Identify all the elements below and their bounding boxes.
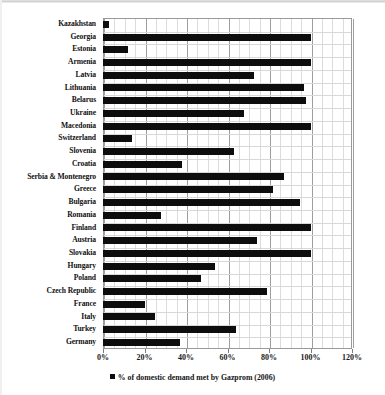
- category-label: Italy: [0, 311, 100, 324]
- category-axis-labels: KazakhstanGeorgiaEstoniaArmeniaLatviaLit…: [0, 18, 100, 349]
- bar: [103, 186, 273, 193]
- bar-row: [103, 120, 352, 133]
- category-label: Switzerland: [0, 132, 100, 145]
- x-axis-tick-label: 0%: [97, 353, 109, 362]
- bar-row: [103, 132, 352, 145]
- bar: [103, 339, 180, 346]
- bar-row: [103, 222, 352, 235]
- bar: [103, 97, 306, 104]
- category-label: France: [0, 298, 100, 311]
- bar: [103, 84, 304, 91]
- bar: [103, 288, 267, 295]
- bar-row: [103, 94, 352, 107]
- category-label: Turkey: [0, 323, 100, 336]
- bar: [103, 59, 311, 66]
- bar-row: [103, 107, 352, 120]
- category-label: Ukraine: [0, 107, 100, 120]
- x-axis-tick-label: 40%: [178, 353, 194, 362]
- x-axis-tick-label: 60%: [220, 353, 236, 362]
- chart-legend: % of domestic demand met by Gazprom (200…: [0, 372, 385, 382]
- bar-row: [103, 43, 352, 56]
- category-label: Slovakia: [0, 247, 100, 260]
- bar-row: [103, 234, 352, 247]
- category-label: Finland: [0, 222, 100, 235]
- category-label: Czech Republic: [0, 285, 100, 298]
- bar: [103, 313, 155, 320]
- x-axis-tick-label: 20%: [137, 353, 153, 362]
- category-label: Macedonia: [0, 120, 100, 133]
- category-label: Kazakhstan: [0, 18, 100, 31]
- bar: [103, 237, 257, 244]
- gazprom-domestic-demand-bar-chart: KazakhstanGeorgiaEstoniaArmeniaLatviaLit…: [0, 0, 385, 395]
- bar-row: [103, 171, 352, 184]
- bar-row: [103, 18, 352, 31]
- bar: [103, 148, 234, 155]
- bar: [103, 224, 311, 231]
- category-label: Germany: [0, 336, 100, 349]
- legend-label: % of domestic demand met by Gazprom (200…: [118, 373, 275, 382]
- bar: [103, 135, 132, 142]
- category-label: Croatia: [0, 158, 100, 171]
- category-label: Poland: [0, 272, 100, 285]
- bar-row: [103, 285, 352, 298]
- category-label: Estonia: [0, 43, 100, 56]
- bar: [103, 326, 236, 333]
- category-label: Hungary: [0, 260, 100, 273]
- bar: [103, 72, 254, 79]
- bar: [103, 250, 311, 257]
- bar-row: [103, 31, 352, 44]
- x-axis-tick-label: 80%: [261, 353, 277, 362]
- bar: [103, 34, 311, 41]
- bar-row: [103, 298, 352, 311]
- legend-swatch-icon: [110, 374, 115, 379]
- bar-row: [103, 336, 352, 349]
- bar: [103, 199, 300, 206]
- x-axis-tick-label: 120%: [342, 353, 362, 362]
- bar: [103, 21, 109, 28]
- bar: [103, 173, 284, 180]
- bar: [103, 46, 128, 53]
- category-label: Latvia: [0, 69, 100, 82]
- category-label: Serbia & Montenegro: [0, 171, 100, 184]
- x-axis-tick-label: 100%: [301, 353, 321, 362]
- category-label: Austria: [0, 234, 100, 247]
- category-label: Georgia: [0, 31, 100, 44]
- category-label: Armenia: [0, 56, 100, 69]
- bar: [103, 110, 244, 117]
- bar-row: [103, 311, 352, 324]
- category-label: Greece: [0, 183, 100, 196]
- bar-row: [103, 82, 352, 95]
- bar-row: [103, 323, 352, 336]
- bar: [103, 275, 201, 282]
- bar-row: [103, 145, 352, 158]
- bar: [103, 263, 215, 270]
- bar: [103, 123, 311, 130]
- gridline-major: [353, 19, 354, 348]
- bar-row: [103, 272, 352, 285]
- x-axis-tick-labels: 0%20%40%60%80%100%120%: [103, 353, 352, 367]
- category-label: Bulgaria: [0, 196, 100, 209]
- bar-row: [103, 56, 352, 69]
- bar: [103, 212, 161, 219]
- bar-row: [103, 247, 352, 260]
- bar: [103, 301, 145, 308]
- bar-row: [103, 69, 352, 82]
- bar-series: [103, 18, 352, 349]
- bar-row: [103, 183, 352, 196]
- category-label: Slovenia: [0, 145, 100, 158]
- category-label: Lithuania: [0, 82, 100, 95]
- category-label: Romania: [0, 209, 100, 222]
- bar-row: [103, 209, 352, 222]
- category-label: Belarus: [0, 94, 100, 107]
- bar-row: [103, 158, 352, 171]
- bar-row: [103, 260, 352, 273]
- bar: [103, 161, 182, 168]
- bar-row: [103, 196, 352, 209]
